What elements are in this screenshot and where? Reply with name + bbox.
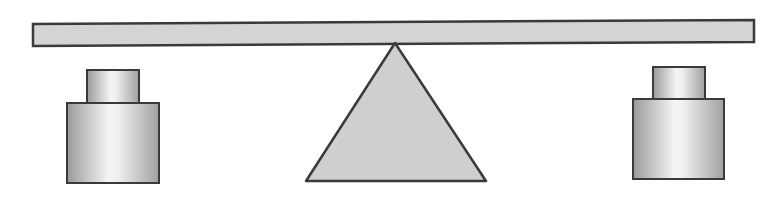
left-weight bbox=[67, 70, 159, 183]
right-weight-body bbox=[633, 99, 724, 179]
fulcrum-triangle bbox=[306, 43, 486, 181]
seesaw-beam bbox=[33, 20, 754, 46]
right-weight bbox=[633, 67, 724, 179]
balance-diagram bbox=[0, 0, 780, 198]
balance-svg bbox=[0, 0, 780, 198]
right-weight-cap bbox=[653, 67, 705, 99]
left-weight-body bbox=[67, 103, 159, 183]
left-weight-cap bbox=[87, 70, 139, 103]
